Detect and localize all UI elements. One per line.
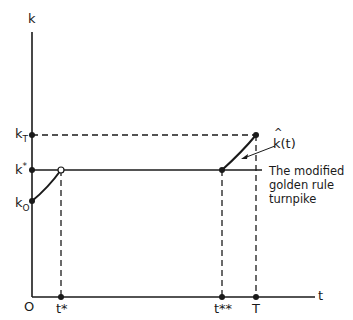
kT-point: [29, 132, 35, 138]
origin-label: O: [24, 300, 34, 313]
kstar-label-main: k: [15, 162, 23, 177]
tstar-axis-point: [58, 294, 64, 300]
departure-curve: [222, 135, 256, 170]
T-label: T: [252, 302, 260, 315]
k0-label-sub: O: [23, 203, 30, 213]
k0-label: kO: [15, 196, 30, 213]
kT-label-sub: T: [23, 134, 29, 144]
turnpike-annotation: The modified golden rule turnpike: [269, 164, 344, 206]
tstarstar-axis-point: [219, 294, 225, 300]
tstar-label: t*: [56, 302, 68, 315]
curve-pointer-arrowhead: [241, 154, 248, 159]
k0-point: [29, 198, 35, 204]
diagram-canvas: [0, 0, 353, 320]
tstarstar-label: t**: [214, 302, 232, 315]
T-axis-point: [253, 294, 259, 300]
k0-label-main: k: [15, 195, 23, 210]
kstar-label-sup: *: [23, 161, 28, 171]
T-top-point: [253, 132, 259, 138]
curve-label: k(t): [273, 137, 296, 150]
tstar-open-point: [58, 167, 64, 173]
tstarstar-point: [219, 167, 225, 173]
y-axis-label: k: [28, 12, 36, 25]
approach-curve: [32, 170, 61, 201]
x-axis-label: t: [318, 289, 323, 302]
kT-label-main: k: [15, 126, 23, 141]
curve-pointer-line: [244, 146, 275, 158]
kstar-point: [29, 167, 35, 173]
kT-label: kT: [15, 127, 28, 144]
kstar-label: k*: [15, 162, 27, 176]
